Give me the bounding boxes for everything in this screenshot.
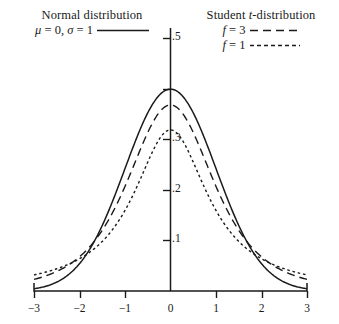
distribution-chart: Normal distribution μ = 0, σ = 1 Student… <box>0 0 339 324</box>
x-tick-label: −3 <box>21 302 47 314</box>
x-tick-label: 3 <box>294 302 320 314</box>
y-tick-label: .5 <box>172 30 181 42</box>
plot-area <box>0 0 339 324</box>
y-tick-label: .1 <box>172 232 181 244</box>
y-tick-label: .2 <box>172 182 181 194</box>
y-tick-label: .3 <box>172 131 181 143</box>
x-tick-label: 0 <box>158 302 184 314</box>
x-tick-label: 2 <box>249 302 275 314</box>
x-tick-label: 1 <box>203 302 229 314</box>
x-tick-label: −1 <box>112 302 138 314</box>
x-axis-ticks <box>35 291 308 298</box>
x-tick-label: −2 <box>67 302 93 314</box>
